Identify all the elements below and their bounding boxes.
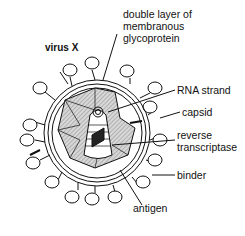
rna-strand-label: RNA strand bbox=[177, 85, 231, 96]
reverse-transcriptase-label-2: transcriptase bbox=[177, 142, 237, 153]
membrane-label-3: glycoprotein bbox=[123, 33, 180, 44]
capsid-label: capsid bbox=[182, 107, 212, 118]
virus-title: virus X bbox=[45, 42, 78, 53]
antigen-label: antigen bbox=[133, 203, 167, 214]
binder-label: binder bbox=[177, 170, 206, 181]
reverse-transcriptase-label-1: reverse bbox=[177, 130, 212, 141]
membrane-label-2: membranous bbox=[123, 21, 184, 32]
membrane-label-1: double layer of bbox=[123, 9, 192, 20]
